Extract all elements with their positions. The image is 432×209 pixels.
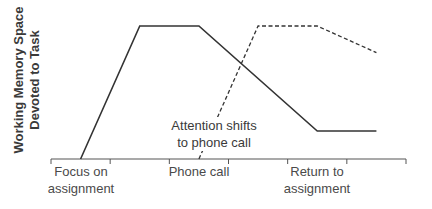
x-label-focus-on-assignment: Focus on assignment	[43, 163, 119, 197]
x-label-line: assignment	[43, 180, 119, 197]
x-label-phone-call: Phone call	[158, 163, 240, 180]
y-axis-label-line2: Devoted to Task	[27, 6, 43, 153]
annotation-line: to phone call	[161, 134, 267, 151]
x-label-line: Focus on	[43, 163, 119, 180]
annotation-attention-shifts: Attention shifts to phone call	[160, 117, 268, 151]
x-label-return-to-assignment: Return to assignment	[276, 163, 358, 197]
y-axis-label-line1: Working Memory Space	[11, 6, 27, 153]
x-label-line: Phone call	[158, 163, 240, 180]
x-label-line: Return to	[276, 163, 358, 180]
annotation-line: Attention shifts	[161, 117, 267, 134]
y-axis-label: Working Memory Space Devoted to Task	[2, 0, 52, 160]
x-label-line: assignment	[276, 180, 358, 197]
